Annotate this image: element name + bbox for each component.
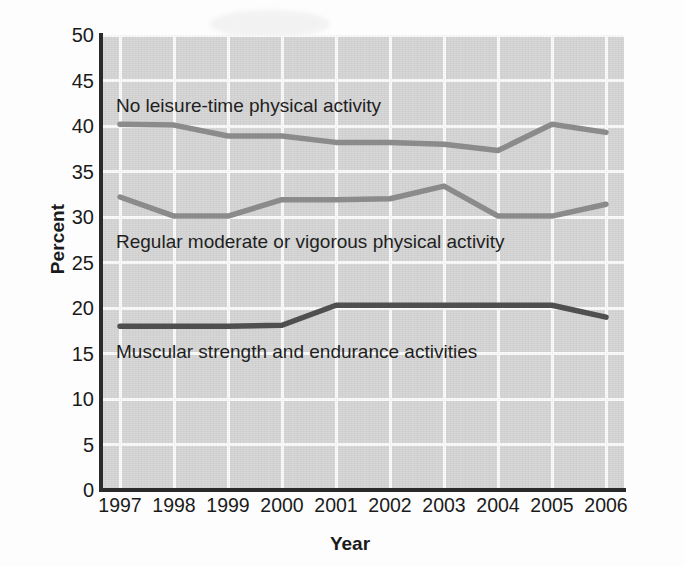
- line-chart: Percent 05101520253035404550 No leisure-…: [0, 0, 684, 566]
- x-tick-label: 2001: [306, 496, 366, 516]
- x-tick-label: 1997: [90, 496, 150, 516]
- x-tick-label: 1998: [144, 496, 204, 516]
- x-tick-label: 2005: [522, 496, 582, 516]
- series-line-0: [120, 124, 606, 150]
- x-tick-label: 2006: [576, 496, 636, 516]
- x-tick-label: 2002: [360, 496, 420, 516]
- series-label-regular-moderate-or-vigorous-physical-activity: Regular moderate or vigorous physical ac…: [116, 232, 505, 251]
- x-tick-label: 2003: [414, 496, 474, 516]
- series-line-2: [120, 305, 606, 326]
- series-lines-layer: [0, 0, 684, 566]
- x-axis-title: Year: [100, 533, 600, 555]
- x-tick-label: 2004: [468, 496, 528, 516]
- x-tick-label: 2000: [252, 496, 312, 516]
- series-label-no-leisure-time-physical-activity: No leisure-time physical activity: [116, 96, 381, 115]
- series-label-muscular-strength-and-endurance-activities: Muscular strength and endurance activiti…: [116, 342, 477, 361]
- x-tick-label: 1999: [198, 496, 258, 516]
- series-line-1: [120, 186, 606, 216]
